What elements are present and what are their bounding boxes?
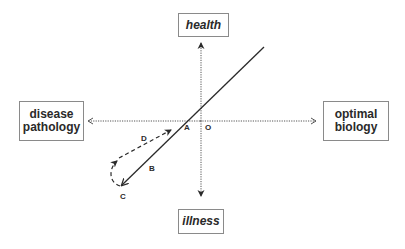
point-d-label: D xyxy=(141,134,147,143)
point-c-label: C xyxy=(120,192,126,201)
recovery-curve xyxy=(111,161,120,186)
point-o-label: O xyxy=(205,123,211,132)
trajectory-line xyxy=(122,47,264,185)
diagram-canvas: A O D B C xyxy=(0,0,405,249)
point-b-label: B xyxy=(149,164,155,173)
point-a-label: A xyxy=(184,123,190,132)
